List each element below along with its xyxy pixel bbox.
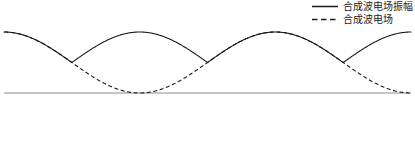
legend-item-envelope: 合成波电场振幅 (312, 1, 413, 12)
beat-wave-figure: 合成波电场振幅 合成波电场 (0, 0, 415, 150)
legend-label-field: 合成波电场 (343, 14, 393, 25)
legend-swatch-dashed (312, 15, 338, 24)
legend-item-field: 合成波电场 (312, 14, 413, 25)
legend-label-envelope: 合成波电场振幅 (343, 1, 413, 12)
legend-swatch-solid (312, 2, 338, 11)
field-curve-dashed (4, 32, 411, 93)
legend: 合成波电场振幅 合成波电场 (312, 1, 413, 25)
